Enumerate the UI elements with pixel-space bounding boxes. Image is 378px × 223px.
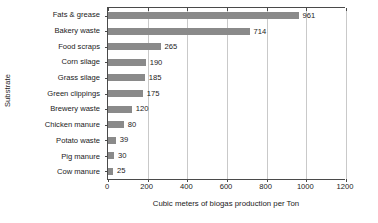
y-axis-tick-mark <box>105 47 108 48</box>
bar-value-label: 190 <box>150 59 163 67</box>
bar-row: 175 <box>108 86 345 102</box>
bar-row: 30 <box>108 148 345 164</box>
bar-row: 961 <box>108 8 345 24</box>
bar-value-label: 30 <box>118 152 126 160</box>
bar-row: 120 <box>108 101 345 117</box>
x-axis-tick-label: 0 <box>105 183 109 191</box>
bar <box>108 121 124 128</box>
bar <box>108 90 143 97</box>
bar-row: 190 <box>108 55 345 71</box>
y-axis-tick-mark <box>105 140 108 141</box>
x-axis-tick-mark <box>346 8 347 11</box>
y-axis-tick-label: Green clippings <box>14 86 104 102</box>
x-axis-tick-label: 1200 <box>337 183 354 191</box>
y-axis-tick-label: Pig manure <box>14 149 104 165</box>
y-axis-title-text: Substrate <box>3 74 12 107</box>
y-axis-tick-mark <box>105 125 108 126</box>
y-axis-tick-label: Grass silage <box>14 70 104 86</box>
bar-row: 265 <box>108 39 345 55</box>
bar-row: 714 <box>108 24 345 40</box>
y-axis-tick-mark <box>105 171 108 172</box>
y-axis-tick-label: Cow manure <box>14 164 104 180</box>
bar-row: 185 <box>108 70 345 86</box>
bar <box>108 106 132 113</box>
bar-row: 25 <box>108 163 345 179</box>
bar-chart: Substrate Fats & greaseBakery wasteFood … <box>0 0 378 223</box>
bar <box>108 59 146 66</box>
y-axis-tick-mark <box>105 156 108 157</box>
y-axis-tick-mark <box>105 16 108 17</box>
bar-value-label: 185 <box>149 74 162 82</box>
bar <box>108 28 250 35</box>
bar-value-label: 25 <box>117 167 125 175</box>
bar <box>108 74 145 81</box>
y-axis-tick-label: Brewery waste <box>14 101 104 117</box>
y-axis-tick-label: Fats & grease <box>14 7 104 23</box>
x-axis-tick-label: 600 <box>220 183 233 191</box>
bar-value-label: 80 <box>128 121 136 129</box>
bar-row: 80 <box>108 117 345 133</box>
y-axis-tick-mark <box>105 62 108 63</box>
bar <box>108 168 113 175</box>
bar-value-label: 265 <box>165 43 178 51</box>
x-axis-tick-label: 800 <box>259 183 272 191</box>
bar-row: 39 <box>108 132 345 148</box>
bar-value-label: 39 <box>120 136 128 144</box>
gridline <box>346 8 347 179</box>
y-axis-tick-label: Bakery waste <box>14 23 104 39</box>
y-axis-tick-label: Food scraps <box>14 38 104 54</box>
bar-value-label: 175 <box>147 90 160 98</box>
bar <box>108 12 299 19</box>
bar-value-label: 961 <box>303 12 316 20</box>
y-axis-tick-label: Corn silage <box>14 54 104 70</box>
bar <box>108 137 116 144</box>
y-axis-tick-mark <box>105 109 108 110</box>
y-axis-tick-mark <box>105 31 108 32</box>
bar-value-label: 120 <box>136 105 149 113</box>
y-axis-tick-mark <box>105 78 108 79</box>
y-axis-tick-label: Chicken manure <box>14 117 104 133</box>
x-axis-title: Cubic meters of biogas production per To… <box>107 199 345 208</box>
y-axis-title: Substrate <box>0 0 14 181</box>
y-axis-tick-labels: Fats & greaseBakery wasteFood scrapsCorn… <box>14 7 104 180</box>
x-axis-tick-label: 1000 <box>297 183 314 191</box>
y-axis-tick-label: Potato waste <box>14 133 104 149</box>
plot-area: 96171426519018517512080393025 <box>107 7 345 180</box>
x-axis-tick-label: 400 <box>180 183 193 191</box>
y-axis-tick-mark <box>105 94 108 95</box>
bar-value-label: 714 <box>254 28 267 36</box>
bar-series: 96171426519018517512080393025 <box>108 8 345 179</box>
x-axis-tick-label: 200 <box>140 183 153 191</box>
bar <box>108 152 114 159</box>
bar <box>108 43 161 50</box>
x-axis-tick-labels: 020040060080010001200 <box>107 183 345 195</box>
